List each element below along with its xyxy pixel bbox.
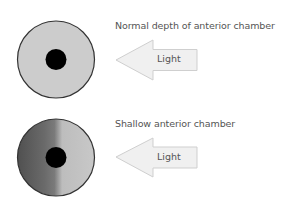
pupil-icon [46,147,67,168]
arrow-label-light: Light [157,151,181,162]
arrow-label-light: Light [157,53,181,64]
shallow-eye-diagram [0,101,287,202]
normal-depth-panel: Normal depth of anterior chamber Light [0,0,287,101]
caption-shallow: Shallow anterior chamber [115,118,235,129]
normal-eye-diagram [0,0,287,101]
caption-normal: Normal depth of anterior chamber [115,20,275,31]
shallow-chamber-panel: Shallow anterior chamber Light [0,101,287,202]
pupil-icon [46,49,67,70]
